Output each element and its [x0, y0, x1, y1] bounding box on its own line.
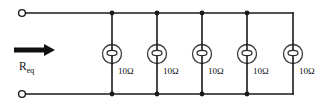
- junction-dot-bottom: [245, 92, 250, 97]
- resistor-value-label: 10Ω: [118, 66, 134, 76]
- resistor-symbol-ellipse: [197, 50, 207, 55]
- resistor-symbol-ellipse: [107, 50, 117, 55]
- branch-3: 10Ω: [193, 11, 225, 97]
- junction-dot-top: [200, 11, 205, 16]
- junction-dot-top: [245, 11, 250, 16]
- junction-dot-top: [155, 11, 160, 16]
- resistor-symbol-ellipse: [242, 50, 252, 55]
- branch-4: 10Ω: [238, 11, 270, 97]
- equivalent-resistance-arrow: [14, 44, 55, 56]
- branch-1: 10Ω: [103, 11, 135, 97]
- junction-dot-bottom: [110, 92, 115, 97]
- resistor-value-label: 10Ω: [299, 66, 315, 76]
- circuit-svg-canvas: 10Ω 10Ω 10Ω: [0, 0, 323, 108]
- resistor-value-label: 10Ω: [253, 66, 269, 76]
- resistor-value-label: 10Ω: [208, 66, 224, 76]
- branch-2: 10Ω: [148, 11, 180, 97]
- junction-dot-bottom: [200, 92, 205, 97]
- resistor-symbol-ellipse: [152, 50, 162, 55]
- req-subscript: eq: [27, 66, 35, 75]
- circuit-diagram: 10Ω 10Ω 10Ω: [0, 0, 323, 108]
- resistor-symbol-ellipse: [288, 50, 298, 55]
- arrow-right-icon: [14, 44, 55, 56]
- resistor-value-label: 10Ω: [163, 66, 179, 76]
- equivalent-resistance-label: Req: [19, 60, 34, 75]
- terminal-bottom[interactable]: [19, 91, 26, 98]
- branch-5: 10Ω: [284, 45, 316, 77]
- junction-dot-bottom: [155, 92, 160, 97]
- junction-dot-top: [110, 11, 115, 16]
- terminal-top[interactable]: [19, 10, 26, 17]
